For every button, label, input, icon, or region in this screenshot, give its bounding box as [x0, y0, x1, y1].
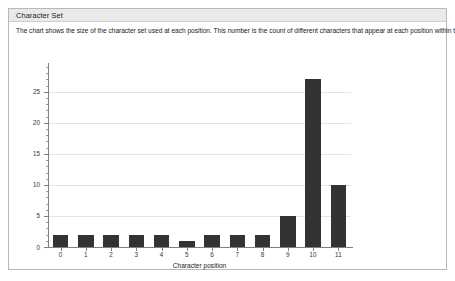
- x-tick-mark: [111, 248, 112, 251]
- x-tick-label: 3: [126, 251, 146, 259]
- x-tick-mark: [288, 248, 289, 251]
- bar: [103, 235, 119, 247]
- x-tick-label: 4: [152, 251, 172, 259]
- x-tick-label: 7: [227, 251, 247, 259]
- x-tick-label: 8: [253, 251, 273, 259]
- bar: [204, 235, 220, 247]
- x-tick-label: 0: [51, 251, 71, 259]
- x-tick-label: 10: [303, 251, 323, 259]
- y-tick-label: 20: [14, 119, 40, 126]
- x-tick-mark: [263, 248, 264, 251]
- x-tick-label: 2: [101, 251, 121, 259]
- y-tick-label: 15: [14, 150, 40, 157]
- x-tick-mark: [313, 248, 314, 251]
- x-tick-mark: [237, 248, 238, 251]
- bar: [305, 79, 321, 247]
- bar: [53, 235, 69, 247]
- x-tick-mark: [162, 248, 163, 251]
- y-tick-label: 5: [14, 212, 40, 219]
- bar: [154, 235, 170, 247]
- character-set-panel: Character Set The chart shows the size o…: [8, 8, 447, 270]
- y-tick-label: 25: [14, 88, 40, 95]
- bar: [255, 235, 271, 247]
- panel-description: The chart shows the size of the characte…: [16, 26, 444, 35]
- bar: [179, 241, 195, 247]
- x-axis-title: Character position: [48, 261, 351, 270]
- x-tick-mark: [61, 248, 62, 251]
- bar: [331, 185, 347, 247]
- x-tick-mark: [212, 248, 213, 251]
- page-title: Character Set: [16, 10, 63, 21]
- y-tick-label: 10: [14, 181, 40, 188]
- character-set-bar-chart: 0510152025 01234567891011 Character posi…: [9, 45, 448, 270]
- y-tick-label: 0: [14, 244, 40, 251]
- x-tick-mark: [187, 248, 188, 251]
- x-tick-mark: [136, 248, 137, 251]
- panel-header: [9, 9, 446, 22]
- x-tick-label: 1: [76, 251, 96, 259]
- x-tick-label: 6: [202, 251, 222, 259]
- bar-series: [48, 45, 351, 247]
- x-tick-mark: [86, 248, 87, 251]
- bar: [280, 216, 296, 247]
- bar: [230, 235, 246, 247]
- x-tick-label: 11: [328, 251, 348, 259]
- bar: [78, 235, 94, 247]
- y-tick-mark: [44, 247, 48, 248]
- x-tick-mark: [338, 248, 339, 251]
- x-tick-label: 9: [278, 251, 298, 259]
- x-tick-label: 5: [177, 251, 197, 259]
- bar: [129, 235, 145, 247]
- x-axis-line: [48, 247, 353, 248]
